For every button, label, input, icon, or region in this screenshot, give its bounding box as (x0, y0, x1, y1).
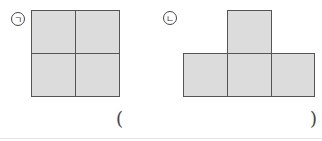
figure-label-a: ㄱ (11, 12, 25, 26)
divider (0, 138, 322, 139)
cell (75, 10, 120, 54)
cell (31, 53, 76, 97)
cell (75, 53, 120, 97)
answer-open-paren: ( (116, 108, 123, 129)
figure-label-b: ㄴ (163, 11, 177, 25)
cell (271, 53, 315, 97)
problem: ㄱ ㄴ ( ) (0, 0, 322, 141)
cell (31, 10, 76, 54)
cell (227, 53, 272, 97)
answer-field[interactable] (130, 110, 305, 130)
cell (227, 10, 272, 54)
cell (183, 53, 228, 97)
answer-close-paren: ) (310, 108, 317, 129)
